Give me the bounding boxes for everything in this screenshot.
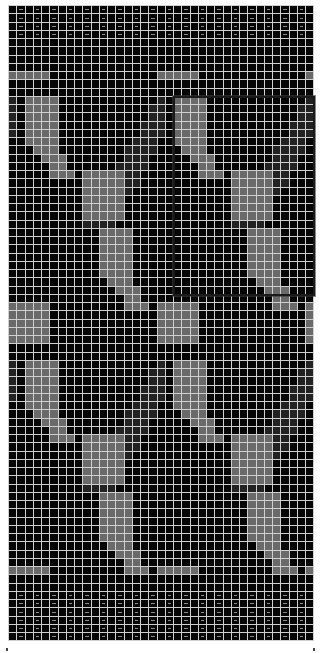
chart-cell[interactable]: [26, 328, 33, 335]
chart-cell[interactable]: [166, 155, 173, 162]
chart-cell[interactable]: [92, 361, 99, 368]
chart-cell[interactable]: [240, 427, 247, 434]
chart-cell[interactable]: [207, 410, 214, 417]
chart-cell[interactable]: [59, 303, 66, 310]
chart-cell[interactable]: [240, 287, 247, 294]
chart-cell[interactable]: [166, 229, 173, 236]
chart-cell[interactable]: [116, 443, 123, 450]
chart-cell[interactable]: [149, 476, 156, 483]
chart-cell[interactable]: [158, 617, 165, 624]
chart-cell[interactable]: [108, 80, 115, 87]
chart-cell[interactable]: [9, 130, 16, 137]
chart-cell[interactable]: [67, 551, 74, 558]
chart-cell[interactable]: [83, 402, 90, 409]
chart-cell[interactable]: [166, 460, 173, 467]
chart-cell[interactable]: [306, 427, 313, 434]
chart-cell[interactable]: [265, 311, 272, 318]
chart-cell[interactable]: [298, 14, 305, 21]
chart-cell[interactable]: [182, 287, 189, 294]
chart-cell[interactable]: [265, 287, 272, 294]
chart-cell[interactable]: [199, 130, 206, 137]
chart-cell[interactable]: [199, 229, 206, 236]
chart-cell[interactable]: [290, 6, 297, 13]
chart-cell[interactable]: [306, 146, 313, 153]
chart-cell[interactable]: [298, 402, 305, 409]
chart-cell[interactable]: [108, 567, 115, 574]
chart-cell[interactable]: [17, 427, 24, 434]
chart-cell[interactable]: [248, 419, 255, 426]
chart-cell[interactable]: [158, 559, 165, 566]
chart-cell[interactable]: [199, 155, 206, 162]
chart-cell[interactable]: [141, 509, 148, 516]
chart-cell[interactable]: [166, 394, 173, 401]
chart-cell[interactable]: [125, 402, 132, 409]
chart-cell[interactable]: [290, 303, 297, 310]
chart-cell[interactable]: [224, 6, 231, 13]
chart-cell[interactable]: [306, 204, 313, 211]
chart-cell[interactable]: [281, 320, 288, 327]
chart-cell[interactable]: [92, 493, 99, 500]
chart-cell[interactable]: [141, 386, 148, 393]
chart-cell[interactable]: [166, 320, 173, 327]
chart-cell[interactable]: [83, 89, 90, 96]
chart-cell[interactable]: [158, 23, 165, 30]
chart-cell[interactable]: [182, 633, 189, 640]
chart-cell[interactable]: [240, 146, 247, 153]
chart-cell[interactable]: [215, 443, 222, 450]
chart-cell[interactable]: [306, 460, 313, 467]
chart-cell[interactable]: [116, 592, 123, 599]
chart-cell[interactable]: [207, 254, 214, 261]
chart-cell[interactable]: [42, 146, 49, 153]
chart-cell[interactable]: [125, 419, 132, 426]
chart-cell[interactable]: [116, 204, 123, 211]
chart-cell[interactable]: [75, 328, 82, 335]
chart-cell[interactable]: [191, 633, 198, 640]
chart-cell[interactable]: [174, 394, 181, 401]
chart-cell[interactable]: [133, 303, 140, 310]
chart-cell[interactable]: [59, 105, 66, 112]
chart-cell[interactable]: [257, 163, 264, 170]
chart-cell[interactable]: [34, 295, 41, 302]
chart-cell[interactable]: [265, 410, 272, 417]
chart-cell[interactable]: [174, 336, 181, 343]
chart-cell[interactable]: [92, 287, 99, 294]
chart-cell[interactable]: [182, 608, 189, 615]
chart-cell[interactable]: [298, 155, 305, 162]
chart-cell[interactable]: [257, 122, 264, 129]
chart-cell[interactable]: [207, 633, 214, 640]
chart-cell[interactable]: [265, 138, 272, 145]
chart-cell[interactable]: [232, 468, 239, 475]
chart-cell[interactable]: [240, 584, 247, 591]
chart-cell[interactable]: [9, 377, 16, 384]
chart-cell[interactable]: [100, 64, 107, 71]
chart-cell[interactable]: [298, 518, 305, 525]
chart-cell[interactable]: [248, 64, 255, 71]
chart-cell[interactable]: [182, 6, 189, 13]
chart-cell[interactable]: [166, 138, 173, 145]
chart-cell[interactable]: [273, 47, 280, 54]
chart-cell[interactable]: [75, 361, 82, 368]
chart-cell[interactable]: [273, 56, 280, 63]
chart-cell[interactable]: [215, 221, 222, 228]
chart-cell[interactable]: [207, 344, 214, 351]
chart-cell[interactable]: [298, 212, 305, 219]
chart-cell[interactable]: [26, 72, 33, 79]
chart-cell[interactable]: [9, 551, 16, 558]
chart-cell[interactable]: [240, 163, 247, 170]
chart-cell[interactable]: [215, 6, 222, 13]
chart-cell[interactable]: [273, 468, 280, 475]
chart-cell[interactable]: [116, 163, 123, 170]
chart-cell[interactable]: [306, 600, 313, 607]
chart-cell[interactable]: [182, 221, 189, 228]
chart-cell[interactable]: [17, 518, 24, 525]
chart-cell[interactable]: [182, 328, 189, 335]
chart-cell[interactable]: [248, 476, 255, 483]
chart-cell[interactable]: [92, 221, 99, 228]
chart-cell[interactable]: [50, 130, 57, 137]
chart-cell[interactable]: [232, 6, 239, 13]
chart-cell[interactable]: [257, 336, 264, 343]
chart-cell[interactable]: [141, 97, 148, 104]
chart-cell[interactable]: [17, 113, 24, 120]
chart-cell[interactable]: [158, 452, 165, 459]
chart-cell[interactable]: [215, 328, 222, 335]
